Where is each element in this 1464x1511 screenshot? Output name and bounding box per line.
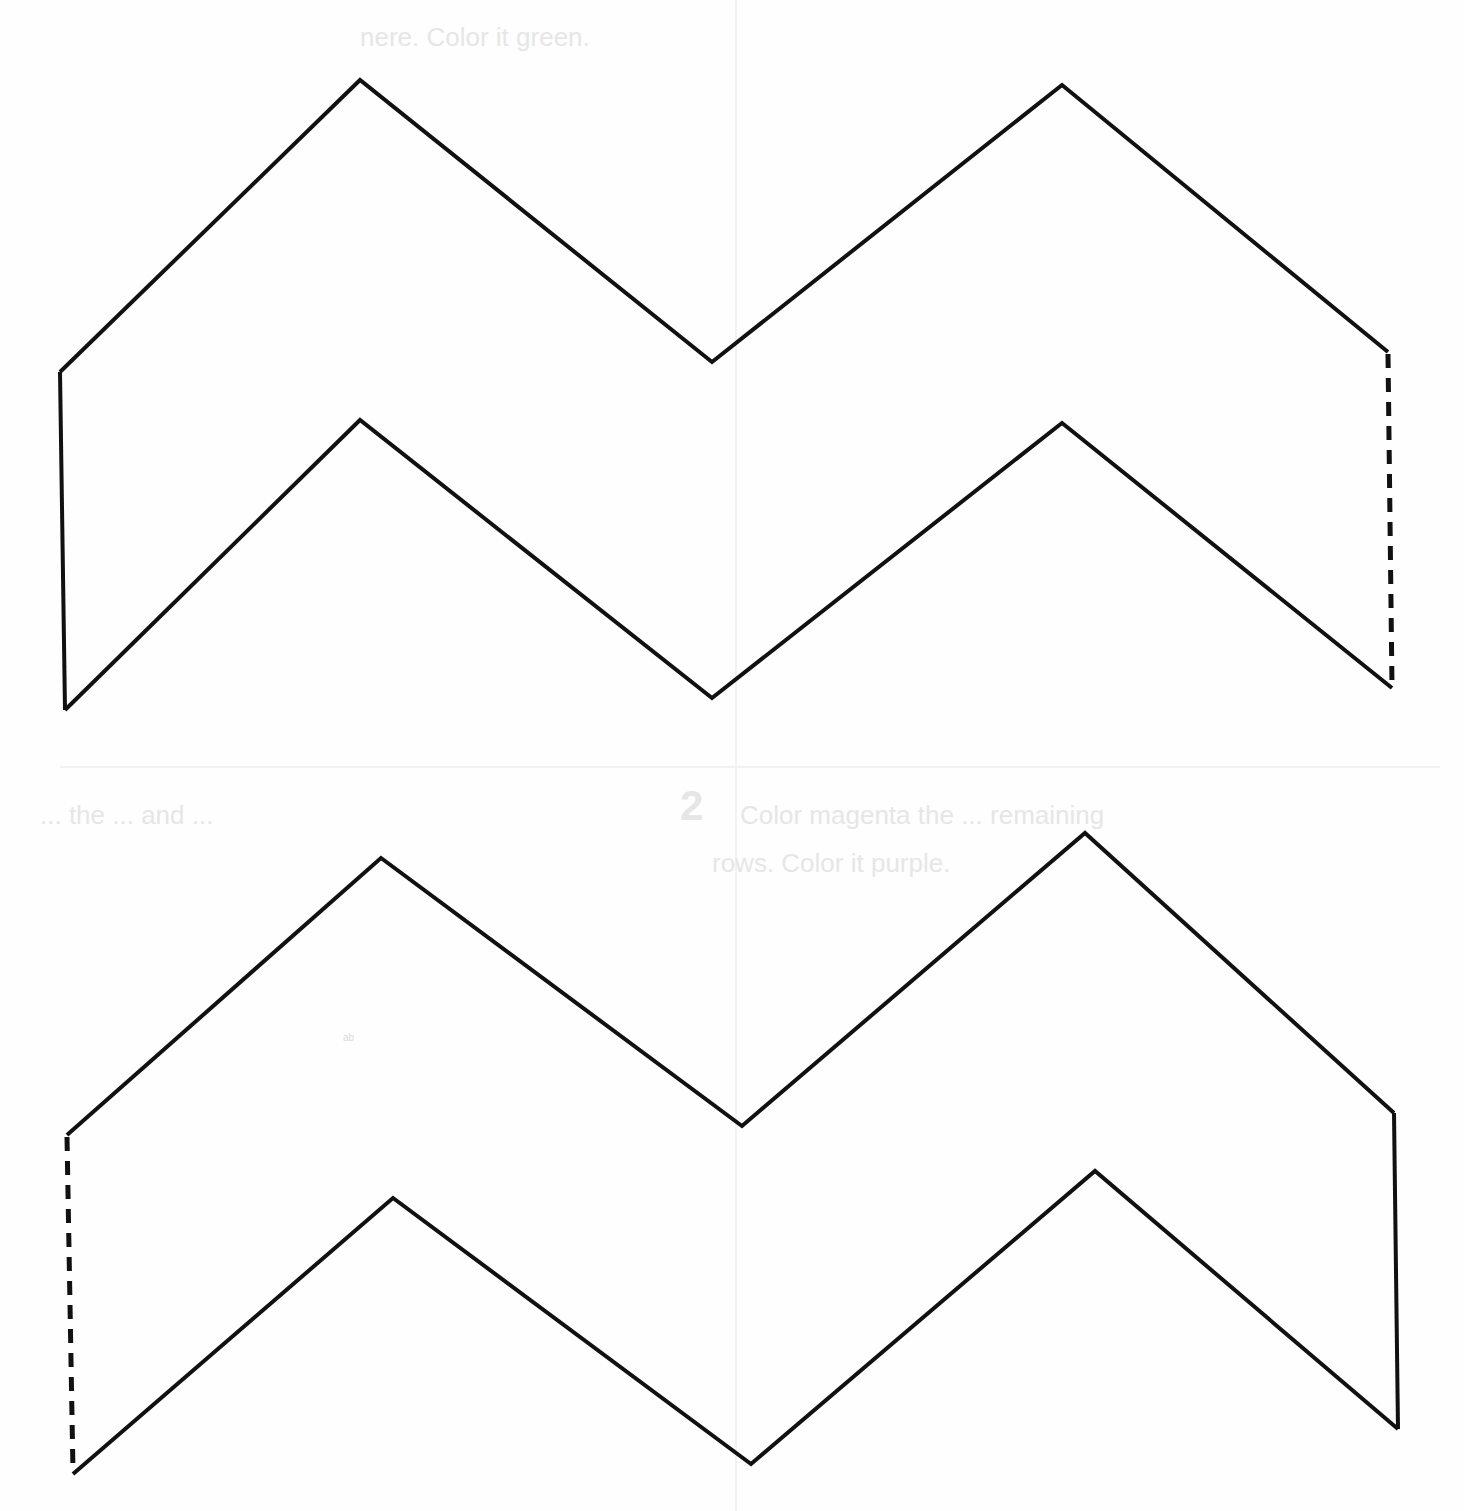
top-chevron-strip <box>60 80 1392 710</box>
bottom-strip-lower-edge <box>73 1171 1398 1474</box>
top-strip-lower-edge <box>65 420 1392 710</box>
top-strip-upper-edge <box>60 80 1388 372</box>
bottom-strip-right-edge <box>1394 1113 1398 1429</box>
top-strip-fold-line <box>1388 354 1392 686</box>
top-strip-left-edge <box>60 372 65 710</box>
template-page: nere. Color it green. 2 Color magenta th… <box>0 0 1464 1511</box>
bottom-strip-upper-edge <box>67 833 1394 1135</box>
chevron-template-drawing <box>0 0 1464 1511</box>
bottom-strip-fold-line <box>67 1137 73 1472</box>
bottom-chevron-strip <box>67 833 1398 1474</box>
